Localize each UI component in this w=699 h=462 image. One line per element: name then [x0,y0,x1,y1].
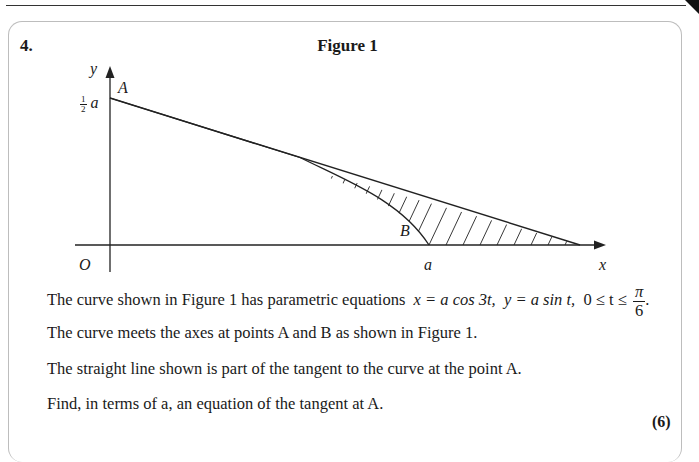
parametric-curve [110,98,429,245]
marks-label: (6) [652,413,671,431]
y-axis-arrow-icon [106,66,115,78]
question-text-line-3: The straight line shown is part of the t… [47,359,522,379]
x-tick-a-label: a [424,256,432,274]
point-b-label: B [400,222,410,240]
y-axis-label: y [90,60,97,78]
question-text-line-2: The curve meets the axes at points A and… [47,323,477,343]
x-axis-label: x [599,256,606,274]
shaded-region-hatching [300,160,605,245]
y-tick-half-a: 12 a [80,94,99,114]
origin-label: O [79,256,91,274]
question-text-line-4: Find, in terms of a, an equation of the … [47,394,383,414]
pi-over-6-fraction: π6 [633,283,645,320]
point-a-label: A [118,79,128,97]
figure-1-diagram [0,0,695,280]
x-axis-arrow-icon [594,241,606,250]
question-text-line-1: The curve shown in Figure 1 has parametr… [47,283,649,320]
